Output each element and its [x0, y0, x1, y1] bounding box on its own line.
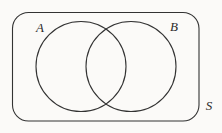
- set-a-label: A: [35, 20, 44, 35]
- universal-set-label: S: [206, 98, 213, 113]
- set-b-circle: [86, 22, 176, 112]
- venn-diagram-canvas: A B S: [0, 0, 222, 133]
- set-b-label: B: [170, 19, 178, 34]
- venn-diagram: A B S: [0, 0, 222, 133]
- set-a-circle: [36, 22, 126, 112]
